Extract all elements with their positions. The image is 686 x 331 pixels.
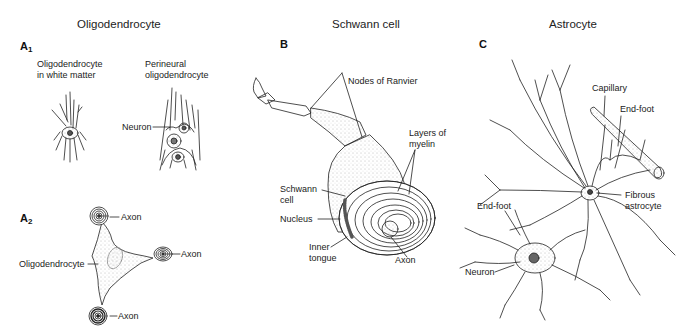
perineural-oligodendrocyte-drawing <box>160 88 200 170</box>
schwann-cell-drawing <box>253 73 435 257</box>
label-perineural-oligodendrocyte: Perineuraloligodendrocyte <box>145 59 209 80</box>
label-schwann-cell: Schwanncell <box>280 184 317 205</box>
label-layers-of-myelin: Layers ofmyelin <box>409 128 446 149</box>
panel-label-a1: A1 <box>20 40 32 54</box>
caption-line: myelin <box>409 139 446 150</box>
label-fibrous-astrocyte: Fibrousastrocyte <box>625 190 662 211</box>
caption-line: cell <box>280 195 317 206</box>
caption-line: Perineural <box>145 59 209 70</box>
caption-line: Oligodendrocyte <box>37 59 103 70</box>
figure-artwork <box>0 0 686 331</box>
label-nucleus: Nucleus <box>280 214 313 225</box>
oligodendrocyte-myelinating-drawing <box>88 207 180 325</box>
label-axon-top: Axon <box>121 212 142 223</box>
label-capillary: Capillary <box>592 83 627 94</box>
caption-line: astrocyte <box>625 201 662 212</box>
caption-line: oligodendrocyte <box>145 70 209 81</box>
panel-letter: A <box>20 212 28 224</box>
caption-line: Inner <box>309 242 337 253</box>
caption-line: Layers of <box>409 128 446 139</box>
title-astrocyte: Astrocyte <box>549 18 597 30</box>
label-oligodendrocyte-white-matter: Oligodendrocytein white matter <box>37 59 103 80</box>
label-end-foot-left: End-foot <box>477 201 511 212</box>
label-axon-right: Axon <box>181 249 202 260</box>
label-axon-b: Axon <box>395 255 416 266</box>
panel-label-c: C <box>479 38 487 50</box>
title-schwann-cell: Schwann cell <box>332 18 400 30</box>
label-axon-bottom: Axon <box>118 311 139 322</box>
label-inner-tongue: Innertongue <box>309 242 337 263</box>
title-oligodendrocyte: Oligodendrocyte <box>77 18 161 30</box>
label-neuron-c: Neuron <box>465 267 495 278</box>
panel-label-a2: A2 <box>20 212 32 226</box>
caption-line: Fibrous <box>625 190 662 201</box>
panel-letter: A <box>20 40 28 52</box>
label-oligodendrocyte-a2: Oligodendrocyte <box>19 259 85 270</box>
panel-label-b: B <box>280 38 288 50</box>
panel-subscript: 2 <box>28 217 32 226</box>
label-neuron-a1: Neuron <box>122 122 152 133</box>
caption-line: Schwann <box>280 184 317 195</box>
caption-line: in white matter <box>37 70 103 81</box>
caption-line: tongue <box>309 253 337 264</box>
oligodendrocyte-white-matter-drawing <box>52 92 86 162</box>
panel-subscript: 1 <box>28 45 32 54</box>
label-end-foot-top: End-foot <box>620 104 654 115</box>
label-nodes-of-ranvier: Nodes of Ranvier <box>348 76 418 87</box>
